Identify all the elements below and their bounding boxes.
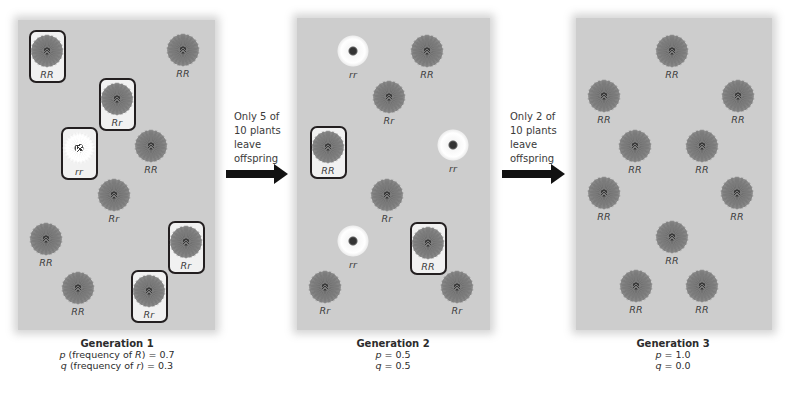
- genotype-label: Rr: [129, 309, 169, 320]
- red-flower-icon: [656, 35, 688, 67]
- red-flower-icon: [722, 80, 754, 112]
- genotype-label: RR: [26, 257, 66, 268]
- genotype-label: rr: [333, 259, 373, 270]
- red-flower-icon: [30, 223, 62, 255]
- genotype-label: RR: [717, 211, 757, 222]
- transition-2-note: Only 2 of 10 plants leave offspring: [510, 110, 557, 166]
- p-frequency: p = 1.0: [563, 349, 783, 360]
- genotype-label: RR: [682, 304, 722, 315]
- generation-title: Generation 2: [283, 338, 503, 349]
- generation-3-caption: Generation 3 p = 1.0 q = 0.0: [563, 338, 783, 371]
- generation-2-caption: Generation 2 p = 0.5 q = 0.5: [283, 338, 503, 371]
- p-frequency: p = 0.5: [283, 349, 503, 360]
- red-flower-icon: [312, 131, 344, 163]
- generation-title: Generation 3: [563, 338, 783, 349]
- red-flower-icon: [588, 80, 620, 112]
- red-flower-icon: [412, 227, 444, 259]
- genotype-label: rr: [433, 163, 473, 174]
- red-flower-icon: [309, 271, 341, 303]
- red-flower-icon: [441, 271, 473, 303]
- genotype-label: RR: [682, 164, 722, 175]
- red-flower-icon: [686, 130, 718, 162]
- genotype-label: RR: [131, 164, 171, 175]
- genotype-label: rr: [333, 69, 373, 80]
- red-flower-icon: [619, 130, 651, 162]
- red-flower-icon: [167, 34, 199, 66]
- genotype-label: RR: [163, 68, 203, 79]
- genotype-label: Rr: [367, 213, 407, 224]
- genotype-label: rr: [59, 166, 99, 177]
- genotype-label: Rr: [369, 115, 409, 126]
- red-flower-icon: [101, 83, 133, 115]
- genotype-label: RR: [616, 304, 656, 315]
- red-flower-icon: [588, 177, 620, 209]
- genotype-label: Rr: [437, 305, 477, 316]
- white-flower-icon: [437, 129, 469, 161]
- arrow-right-icon: [502, 170, 553, 178]
- white-flower-icon: [337, 225, 369, 257]
- red-flower-icon: [31, 35, 63, 67]
- genotype-label: RR: [615, 164, 655, 175]
- white-flower-icon: [63, 132, 95, 164]
- red-flower-icon: [620, 270, 652, 302]
- red-flower-icon: [135, 130, 167, 162]
- genotype-label: Rr: [305, 305, 345, 316]
- genotype-label: Rr: [97, 117, 137, 128]
- red-flower-icon: [373, 81, 405, 113]
- genotype-label: RR: [308, 165, 348, 176]
- generation-1-caption: Generation 1 p (frequency of R) = 0.7 q …: [7, 338, 227, 371]
- genotype-label: RR: [718, 114, 758, 125]
- genotype-label: RR: [652, 69, 692, 80]
- genotype-label: Rr: [94, 213, 134, 224]
- q-frequency: q = 0.0: [563, 360, 783, 371]
- red-flower-icon: [170, 226, 202, 258]
- white-flower-icon: [337, 35, 369, 67]
- red-flower-icon: [371, 179, 403, 211]
- red-flower-icon: [656, 221, 688, 253]
- red-flower-icon: [721, 177, 753, 209]
- genotype-label: Rr: [166, 260, 206, 271]
- q-frequency: q = 0.5: [283, 360, 503, 371]
- red-flower-icon: [62, 272, 94, 304]
- red-flower-icon: [98, 179, 130, 211]
- genotype-label: RR: [652, 255, 692, 266]
- genotype-label: RR: [584, 114, 624, 125]
- genotype-label: RR: [408, 261, 448, 272]
- red-flower-icon: [133, 275, 165, 307]
- red-flower-icon: [411, 35, 443, 67]
- genotype-label: RR: [58, 306, 98, 317]
- arrow-right-icon: [226, 170, 276, 178]
- genotype-label: RR: [584, 211, 624, 222]
- transition-1-note: Only 5 of 10 plants leave offspring: [234, 110, 281, 166]
- genotype-label: RR: [407, 69, 447, 80]
- p-frequency: p (frequency of R) = 0.7: [7, 349, 227, 360]
- genotype-label: RR: [27, 69, 67, 80]
- generation-title: Generation 1: [7, 338, 227, 349]
- q-frequency: q (frequency of r) = 0.3: [7, 360, 227, 371]
- red-flower-icon: [686, 270, 718, 302]
